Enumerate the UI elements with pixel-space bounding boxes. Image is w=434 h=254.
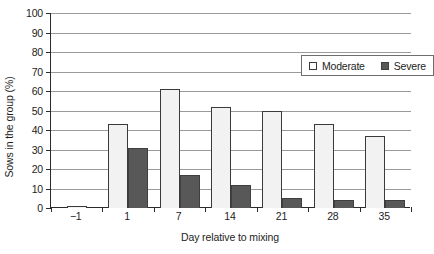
y-tick-label: 100 bbox=[26, 7, 43, 19]
legend-label-moderate: Moderate bbox=[322, 60, 365, 72]
y-tick-label: 90 bbox=[32, 27, 43, 39]
x-tick-label: 21 bbox=[256, 210, 307, 222]
bar-group bbox=[257, 13, 308, 208]
bar-severe-35 bbox=[385, 200, 405, 208]
y-tick-label: 80 bbox=[32, 46, 43, 58]
x-tick-label: −1 bbox=[50, 210, 101, 222]
bar-group bbox=[51, 13, 102, 208]
bar-group bbox=[102, 13, 153, 208]
y-tick-label: 0 bbox=[37, 202, 43, 214]
bar-severe-21 bbox=[282, 198, 302, 208]
x-tick-label: 35 bbox=[359, 210, 410, 222]
plot-area: 0102030405060708090100 Moderate Severe bbox=[50, 13, 410, 208]
bar-moderate-7 bbox=[160, 89, 180, 208]
legend-swatch-moderate-icon bbox=[309, 62, 317, 70]
legend-item-severe: Severe bbox=[381, 60, 426, 72]
bar-moderate-14 bbox=[211, 107, 231, 208]
bar-group bbox=[308, 13, 359, 208]
bar-moderate-28 bbox=[314, 124, 334, 208]
bar-moderate-1 bbox=[108, 124, 128, 208]
x-tick-label: 1 bbox=[101, 210, 152, 222]
x-tick-label: 28 bbox=[307, 210, 358, 222]
x-axis-title: Day relative to mixing bbox=[50, 231, 410, 243]
y-tick-label: 50 bbox=[32, 105, 43, 117]
legend-item-moderate: Moderate bbox=[309, 60, 365, 72]
bar-severe-14 bbox=[231, 185, 251, 208]
y-tick-label: 10 bbox=[32, 183, 43, 195]
y-tick-label: 70 bbox=[32, 66, 43, 78]
y-axis-title: Sows in the group (%) bbox=[3, 76, 15, 177]
x-axis-tick-labels: −11714212835 bbox=[50, 210, 410, 222]
bar-severe-28 bbox=[334, 200, 354, 208]
bar-moderate-35 bbox=[365, 136, 385, 208]
legend-swatch-severe-icon bbox=[381, 62, 389, 70]
y-tick-label: 30 bbox=[32, 144, 43, 156]
bar-moderate-minus1 bbox=[67, 206, 87, 209]
x-tick-mark bbox=[411, 207, 412, 212]
y-tick-label: 20 bbox=[32, 163, 43, 175]
bar-group bbox=[360, 13, 411, 208]
bar-group bbox=[154, 13, 205, 208]
bar-severe-7 bbox=[180, 175, 200, 208]
bar-series-container bbox=[51, 13, 411, 208]
y-tick-label: 60 bbox=[32, 85, 43, 97]
y-tick-label: 40 bbox=[32, 124, 43, 136]
chart-legend: Moderate Severe bbox=[301, 55, 434, 76]
x-tick-label: 7 bbox=[153, 210, 204, 222]
legend-label-severe: Severe bbox=[394, 60, 426, 72]
bar-group bbox=[205, 13, 256, 208]
bar-moderate-21 bbox=[262, 111, 282, 209]
bar-severe-1 bbox=[128, 148, 148, 208]
x-tick-label: 14 bbox=[204, 210, 255, 222]
